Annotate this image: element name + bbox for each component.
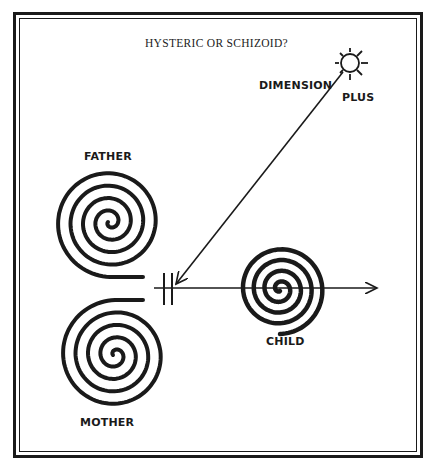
barrier-double-bar [164,273,172,305]
mother-spiral [63,300,161,404]
dimension-arrow [176,72,343,284]
diagram-canvas [0,0,433,471]
child-label: CHILD [266,335,305,348]
plus-label: PLUS [342,91,374,104]
mother-label: MOTHER [80,416,134,429]
father-spiral [58,173,156,277]
child-spiral [243,249,322,334]
father-label: FATHER [84,150,132,163]
dimension-label: DIMENSION [259,79,332,92]
